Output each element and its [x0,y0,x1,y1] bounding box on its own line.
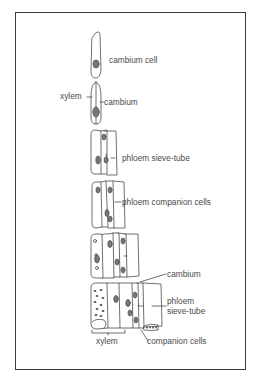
stage-4-cells [92,181,125,228]
stage-5-cells [91,233,139,278]
label-cambium-top: cambium [104,97,138,107]
stage-6-cells [91,283,162,335]
label-phloem-sieve-tube: phloem sieve-tube [122,153,190,163]
stage-3-cells [91,130,117,175]
label-xylem-top: xylem [60,91,82,101]
label-sieve-tube-bottom: sieve-tube [167,306,205,316]
stage-2-dividing-cell [87,82,104,124]
label-companion-cells: companion cells [147,336,207,346]
label-xylem-bottom: xylem [96,336,118,346]
stage-1-cambium-cell [91,32,101,78]
label-phloem-bottom: phloem [167,296,194,306]
label-cambium-cell: cambium cell [109,55,157,65]
label-phloem-companion-cells: phloem companion cells [122,197,211,207]
label-cambium-bottom: cambium [167,269,201,279]
